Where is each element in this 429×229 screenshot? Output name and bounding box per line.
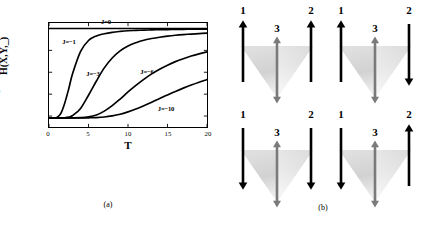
curve-label-j3: J=−3 <box>86 70 99 77</box>
curve-label-j1: J=−1 <box>62 38 75 45</box>
spin-label-2: 2 <box>308 108 314 120</box>
x-axis-label: T <box>124 139 131 151</box>
y-axis-label: H(X,Y,_) <box>0 37 9 75</box>
spin-config-cell: 123 <box>327 112 423 212</box>
lattice-triangle-facet <box>375 150 411 202</box>
x-tick-label: 5 <box>79 130 97 137</box>
spin-label-3: 3 <box>372 126 378 138</box>
curve-J-6 <box>49 52 207 118</box>
spin-config-cell: 123 <box>229 112 325 212</box>
panel-b-caption: (b) <box>318 203 327 212</box>
panel-a-caption: (a) <box>104 200 113 209</box>
spin-label-2: 2 <box>308 4 314 16</box>
spin-label-1: 1 <box>240 108 246 120</box>
lattice-triangle-facet <box>277 46 313 98</box>
spin-label-1: 1 <box>338 4 344 16</box>
spin-label-1: 1 <box>338 108 344 120</box>
x-tick-label: 10 <box>119 130 137 137</box>
lattice-triangle-facet <box>375 46 411 98</box>
curve-J-10 <box>49 80 207 118</box>
x-tick-label: 0 <box>39 130 57 137</box>
spin-label-3: 3 <box>274 22 280 34</box>
panel-b-spin-configs: 123 123 123 <box>215 0 429 229</box>
lattice-triangle-facet <box>277 150 313 202</box>
curve-label-j0: J=0 <box>101 17 111 24</box>
panel-a-chart: H(X,Y,_) 2.00 1.98 1.96 1.94 1.92 0 5 10… <box>0 0 215 229</box>
curve-label-j6: J=−6 <box>140 68 153 75</box>
figure-root: H(X,Y,_) 2.00 1.98 1.96 1.94 1.92 0 5 10… <box>0 0 429 229</box>
spin-label-3: 3 <box>372 22 378 34</box>
x-tick-label: 15 <box>159 130 177 137</box>
spin-label-2: 2 <box>406 108 412 120</box>
spin-label-2: 2 <box>406 4 412 16</box>
curve-label-j10: J=−10 <box>158 105 174 112</box>
spin-config-cell: 123 <box>327 8 423 108</box>
spin-label-3: 3 <box>274 126 280 138</box>
spin-label-1: 1 <box>240 4 246 16</box>
spin-config-cell: 123 <box>229 8 325 108</box>
